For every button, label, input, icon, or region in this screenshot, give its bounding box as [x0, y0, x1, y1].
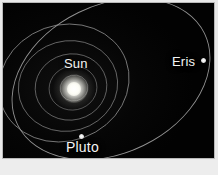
eris-label: Eris [172, 54, 195, 69]
orbit-inner-4 [8, 29, 129, 143]
orbit-eris [3, 3, 214, 158]
night-sky-plate: Sun Eris Pluto [3, 3, 214, 158]
orbit-paths [3, 3, 214, 158]
figure-bottom-margin [0, 160, 218, 175]
sun-label: Sun [64, 56, 88, 71]
orbit-diagram-figure: Sun Eris Pluto [0, 0, 218, 175]
orbit-inner-1 [58, 72, 91, 103]
eris-body-dot [201, 58, 206, 63]
pluto-label: Pluto [66, 139, 99, 155]
